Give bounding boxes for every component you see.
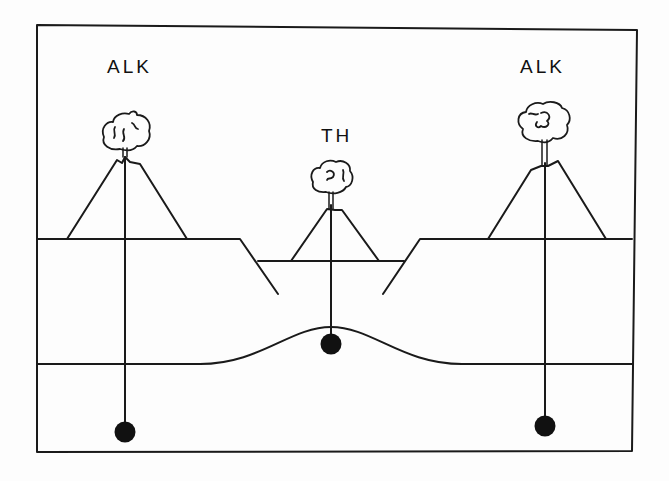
left-magma-source — [115, 422, 136, 443]
right-volcano-cone — [488, 161, 606, 239]
center-volcano-cone — [291, 209, 379, 261]
left-plume-icon — [103, 111, 150, 150]
label-right-alk: ALK — [520, 56, 565, 78]
right-plume-icon — [518, 102, 569, 142]
label-left-alk: ALK — [107, 56, 152, 78]
center-plume-icon — [311, 161, 352, 194]
label-center-th: TH — [321, 125, 352, 147]
right-eruption-column — [542, 140, 547, 166]
center-magma-source — [321, 334, 342, 355]
left-shoulder-surface — [37, 239, 278, 294]
right-magma-source — [535, 416, 556, 437]
right-shoulder-surface — [383, 239, 632, 294]
cross-section-diagram — [0, 0, 669, 481]
left-volcano-cone — [67, 157, 187, 239]
